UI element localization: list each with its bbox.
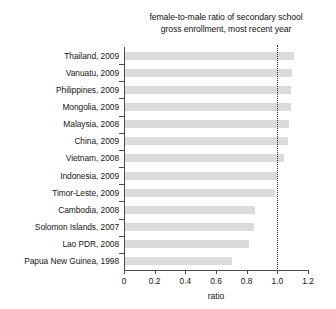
bar-row: Cambodia, 2008 xyxy=(0,201,336,218)
y-tick xyxy=(119,201,124,202)
bar-row: Lao PDR, 2008 xyxy=(0,236,336,253)
bar-row: Solomon Islands, 2007 xyxy=(0,219,336,236)
category-label: Lao PDR, 2008 xyxy=(62,239,119,249)
x-tick-label: 1.0 xyxy=(272,276,284,286)
bar xyxy=(125,189,275,197)
category-label: Timor-Leste, 2009 xyxy=(52,188,119,198)
bar xyxy=(125,223,254,231)
category-label: Solomon Islands, 2007 xyxy=(35,222,119,232)
y-tick xyxy=(119,236,124,237)
x-tick xyxy=(247,270,248,274)
bar xyxy=(125,137,288,145)
bar-row: Timor-Leste, 2009 xyxy=(0,184,336,201)
y-tick xyxy=(119,81,124,82)
bar xyxy=(125,103,291,111)
x-axis-title: ratio xyxy=(124,291,308,301)
category-label: Indonesia, 2009 xyxy=(60,171,119,181)
bar xyxy=(125,240,249,248)
y-tick xyxy=(119,167,124,168)
x-tick xyxy=(185,270,186,274)
bar-row: Philippines, 2009 xyxy=(0,81,336,98)
bar xyxy=(125,120,289,128)
category-label: Vanuatu, 2009 xyxy=(66,68,119,78)
x-tick-label: 1.2 xyxy=(302,276,314,286)
x-tick-label: 0.8 xyxy=(241,276,253,286)
bar-row: Indonesia, 2009 xyxy=(0,167,336,184)
x-tick xyxy=(155,270,156,274)
plot-area: Thailand, 2009Vanuatu, 2009Philippines, … xyxy=(0,0,336,309)
bar-row: Thailand, 2009 xyxy=(0,47,336,64)
bar xyxy=(125,206,255,214)
bar-row: Malaysia, 2008 xyxy=(0,116,336,133)
bar xyxy=(125,69,292,77)
category-label: Cambodia, 2008 xyxy=(58,205,119,215)
category-label: Papua New Guinea, 1998 xyxy=(24,256,119,266)
category-label: Thailand, 2009 xyxy=(64,51,119,61)
category-label: China, 2009 xyxy=(74,136,119,146)
x-tick-label: 0 xyxy=(122,276,127,286)
x-tick-label: 0.6 xyxy=(210,276,222,286)
chart-figure: female-to-male ratio of secondary school… xyxy=(0,0,336,309)
y-tick xyxy=(119,133,124,134)
category-label: Malaysia, 2008 xyxy=(63,119,119,129)
reference-line-1.0 xyxy=(277,45,278,271)
bar xyxy=(125,154,284,162)
category-label: Philippines, 2009 xyxy=(56,85,119,95)
y-tick xyxy=(119,219,124,220)
y-tick xyxy=(119,150,124,151)
x-tick-label: 0.2 xyxy=(149,276,161,286)
bar xyxy=(125,86,291,94)
y-tick xyxy=(119,253,124,254)
x-tick xyxy=(124,270,125,274)
x-tick xyxy=(216,270,217,274)
bar xyxy=(125,257,232,265)
category-label: Vietnam, 2008 xyxy=(66,153,119,163)
bar-row: Vanuatu, 2009 xyxy=(0,64,336,81)
y-tick xyxy=(119,184,124,185)
y-tick xyxy=(119,116,124,117)
bar-row: Mongolia, 2009 xyxy=(0,98,336,115)
bar-row: China, 2009 xyxy=(0,133,336,150)
y-tick xyxy=(119,98,124,99)
bar xyxy=(125,172,277,180)
x-tick-label: 0.4 xyxy=(180,276,192,286)
x-tick xyxy=(308,270,309,274)
bar-row: Papua New Guinea, 1998 xyxy=(0,253,336,270)
y-tick xyxy=(119,64,124,65)
category-label: Mongolia, 2009 xyxy=(62,102,119,112)
bar-row: Vietnam, 2008 xyxy=(0,150,336,167)
x-tick xyxy=(277,270,278,274)
bar xyxy=(125,52,294,60)
